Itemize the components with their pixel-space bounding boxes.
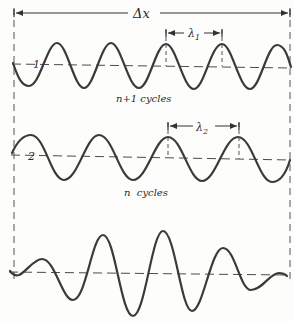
lambda2-label: λ2 xyxy=(195,121,208,136)
wave2-curve xyxy=(12,135,290,182)
wave1-caption: n+1 cycles xyxy=(116,93,171,104)
delta-x-label: Δx xyxy=(132,6,150,21)
wave1-axis-label: 1 xyxy=(33,58,40,71)
delta-x-dimension xyxy=(14,9,290,17)
wave3-curve xyxy=(10,231,287,316)
wave2-axis-label: 2 xyxy=(27,150,35,163)
wave1-curve xyxy=(13,43,291,89)
wave-superposition-diagram: Δx λ1 1 n+1 cycles λ2 2 n cycles xyxy=(0,0,294,322)
wave2-caption: n cycles xyxy=(124,187,168,198)
lambda1-label: λ1 xyxy=(187,27,200,42)
diagram-svg: Δx λ1 1 n+1 cycles λ2 2 n cycles xyxy=(0,0,294,322)
